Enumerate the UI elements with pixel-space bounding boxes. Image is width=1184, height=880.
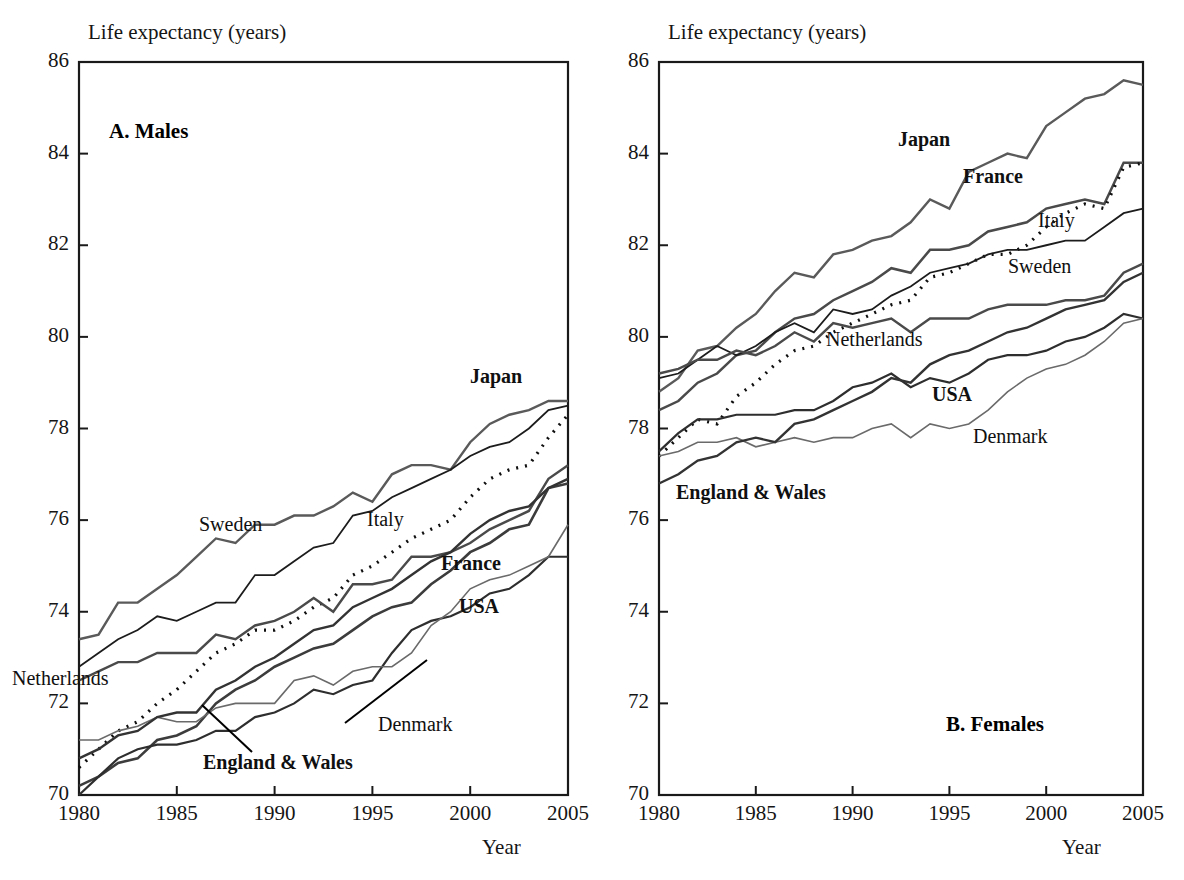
panel-b-caption: B. Females [946, 712, 1044, 737]
y-tick-label: 80 [609, 323, 649, 348]
x-tick-label: 1990 [243, 801, 307, 826]
series-label-usa: USA [459, 595, 499, 618]
life-expectancy-figure: Life expectancy (years) Year A. Males 86… [0, 0, 1184, 880]
x-tick-label: 1985 [724, 801, 788, 826]
y-tick-label: 72 [609, 689, 649, 714]
series-label-sweden: Sweden [199, 513, 262, 536]
series-label-usa: USA [932, 383, 972, 406]
panel-a-males: Life expectancy (years) Year A. Males 86… [0, 0, 592, 880]
series-label-england-wales: England & Wales [203, 751, 353, 774]
series-label-japan: Japan [898, 128, 950, 151]
x-tick-label: 1995 [917, 801, 981, 826]
y-tick-label: 84 [609, 140, 649, 165]
series-label-france: France [963, 165, 1023, 188]
series-label-netherlands: Netherlands [826, 328, 923, 351]
series-label-denmark: Denmark [378, 713, 452, 736]
y-tick-label: 80 [29, 323, 69, 348]
panel-a-caption: A. Males [109, 119, 188, 144]
panel-b-females: Life expectancy (years) Year 86848280787… [592, 0, 1184, 880]
panel-a-plot [0, 0, 592, 880]
plot-frame [659, 62, 1143, 795]
panel-a-y-axis-title: Life expectancy (years) [88, 20, 286, 45]
series-label-france: France [441, 552, 501, 575]
plot-frame [79, 62, 568, 795]
y-tick-label: 82 [29, 231, 69, 256]
y-tick-label: 74 [29, 598, 69, 623]
y-tick-label: 78 [29, 415, 69, 440]
y-tick-label: 84 [29, 140, 69, 165]
panel-a-x-axis-title: Year [482, 835, 521, 860]
series-line-france [79, 483, 568, 785]
series-label-italy: Italy [1038, 209, 1075, 232]
series-label-netherlands: Netherlands [12, 667, 109, 690]
panel-b-x-axis-title: Year [1062, 835, 1101, 860]
series-line-france [659, 163, 1143, 410]
x-tick-label: 2000 [438, 801, 502, 826]
x-tick-label: 1995 [340, 801, 404, 826]
series-label-sweden: Sweden [1008, 255, 1071, 278]
annotation-leader-line [202, 705, 252, 752]
series-label-denmark: Denmark [973, 425, 1047, 448]
series-line-netherlands [659, 264, 1143, 374]
y-tick-label: 78 [609, 415, 649, 440]
series-label-italy: Italy [367, 508, 404, 531]
y-tick-label: 74 [609, 598, 649, 623]
panel-b-plot [592, 0, 1184, 880]
y-tick-label: 82 [609, 231, 649, 256]
series-label-japan: Japan [470, 365, 522, 388]
x-tick-label: 1985 [145, 801, 209, 826]
panel-b-y-axis-title: Life expectancy (years) [668, 20, 866, 45]
series-line-england-wales [79, 479, 568, 758]
y-tick-label: 76 [609, 506, 649, 531]
x-tick-label: 2000 [1014, 801, 1078, 826]
y-tick-label: 86 [609, 48, 649, 73]
y-tick-label: 76 [29, 506, 69, 531]
x-tick-label: 1990 [821, 801, 885, 826]
x-tick-label: 2005 [536, 801, 600, 826]
series-line-england-wales [659, 273, 1143, 484]
x-tick-label: 1980 [47, 801, 111, 826]
y-tick-label: 86 [29, 48, 69, 73]
x-tick-label: 2005 [1111, 801, 1175, 826]
y-tick-label: 72 [29, 689, 69, 714]
series-label-england-wales: England & Wales [676, 481, 826, 504]
x-tick-label: 1980 [627, 801, 691, 826]
